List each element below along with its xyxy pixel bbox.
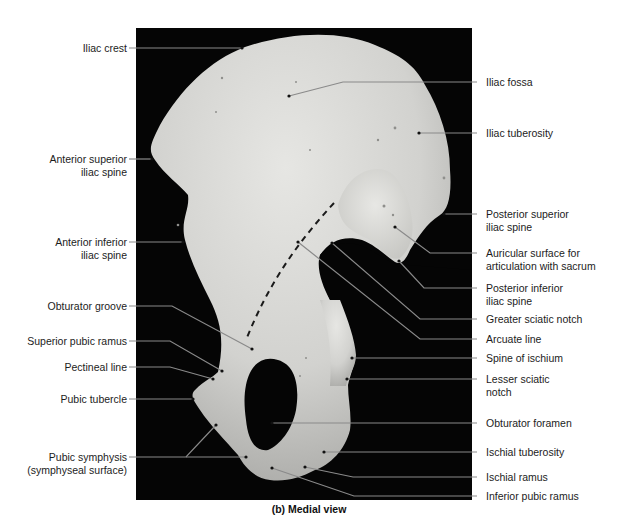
label-text: Anterior superior (49, 153, 127, 166)
hip-bone-medial-view-figure: Iliac crest Anterior superior iliac spin… (0, 0, 618, 528)
label-text: Spine of ischium (486, 352, 563, 365)
label-lesser-sciatic-notch: Lesser sciatic notch (486, 373, 550, 399)
label-text: Posterior superior (486, 208, 569, 221)
label-anterior-superior-iliac-spine: Anterior superior iliac spine (49, 153, 127, 179)
label-text: Obturator foramen (486, 417, 572, 430)
label-text: Iliac tuberosity (486, 127, 553, 140)
label-pubic-tubercle: Pubic tubercle (60, 393, 127, 406)
label-text: iliac spine (486, 221, 569, 234)
label-text: iliac spine (49, 166, 127, 179)
label-spine-of-ischium: Spine of ischium (486, 352, 563, 365)
label-text: articulation with sacrum (486, 260, 596, 273)
figure-caption: (b) Medial view (0, 503, 618, 515)
label-text: Pubic symphysis (27, 451, 127, 464)
label-iliac-crest: Iliac crest (83, 42, 127, 55)
label-iliac-tuberosity: Iliac tuberosity (486, 127, 553, 140)
label-text: Auricular surface for (486, 247, 596, 260)
label-anterior-inferior-iliac-spine: Anterior inferior iliac spine (55, 236, 127, 262)
label-ischial-tuberosity: Ischial tuberosity (486, 446, 564, 459)
label-iliac-fossa: Iliac fossa (486, 76, 533, 89)
label-pectineal-line: Pectineal line (65, 361, 127, 374)
label-superior-pubic-ramus: Superior pubic ramus (27, 335, 127, 348)
label-text: Lesser sciatic (486, 373, 550, 386)
label-text: iliac spine (55, 249, 127, 262)
label-text: Obturator groove (48, 300, 127, 313)
label-posterior-inferior-iliac-spine: Posterior inferior iliac spine (486, 282, 563, 308)
label-text: Anterior inferior (55, 236, 127, 249)
label-obturator-foramen: Obturator foramen (486, 417, 572, 430)
label-greater-sciatic-notch: Greater sciatic notch (486, 313, 582, 326)
label-text: Superior pubic ramus (27, 335, 127, 348)
label-text: Greater sciatic notch (486, 313, 582, 326)
label-text: iliac spine (486, 295, 563, 308)
label-arcuate-line: Arcuate line (486, 333, 541, 346)
label-text: Iliac fossa (486, 76, 533, 89)
label-auricular-surface: Auricular surface for articulation with … (486, 247, 596, 273)
label-text: Arcuate line (486, 333, 541, 346)
label-text: Ischial tuberosity (486, 446, 564, 459)
label-text: (symphyseal surface) (27, 464, 127, 477)
label-text: Pubic tubercle (60, 393, 127, 406)
label-text: Posterior inferior (486, 282, 563, 295)
label-obturator-groove: Obturator groove (48, 300, 127, 313)
label-ischial-ramus: Ischial ramus (486, 471, 548, 484)
label-posterior-superior-iliac-spine: Posterior superior iliac spine (486, 208, 569, 234)
label-inferior-pubic-ramus: Inferior pubic ramus (486, 490, 579, 503)
label-text: Ischial ramus (486, 471, 548, 484)
label-text: Inferior pubic ramus (486, 490, 579, 503)
label-pubic-symphysis: Pubic symphysis (symphyseal surface) (27, 451, 127, 477)
label-text: Iliac crest (83, 42, 127, 55)
hip-bone-shape (151, 35, 451, 481)
label-text: notch (486, 386, 550, 399)
label-text: Pectineal line (65, 361, 127, 374)
